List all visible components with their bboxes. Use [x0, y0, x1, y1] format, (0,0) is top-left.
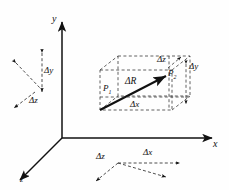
p2-sub: 2 — [174, 74, 177, 80]
axis-label-y: y — [52, 14, 56, 24]
box-label-dx: Δx — [130, 100, 139, 109]
left-cluster-label-dz: Δz — [29, 96, 38, 105]
box-label-dy: Δy — [189, 62, 198, 71]
top-dz-arrow — [168, 57, 181, 68]
left-cluster-diagonal-arrow — [16, 63, 41, 89]
bottom-cluster-label-dz: Δz — [96, 152, 105, 161]
bottom-cluster-dz-arrow — [96, 163, 118, 181]
box-label-dz: Δz — [157, 55, 166, 64]
point-label-p1: P1 — [103, 84, 111, 96]
point-label-p2: P2 — [168, 69, 176, 81]
p1-sub: 1 — [109, 89, 112, 95]
bottom-cluster-label-dx: Δx — [143, 148, 152, 157]
axis-label-x: x — [213, 139, 217, 149]
bottom-cluster-diagonal-arrow — [118, 163, 166, 177]
left-cluster-label-dy: Δy — [44, 66, 53, 75]
axis-label-z: z — [20, 176, 23, 184]
axis-z — [20, 138, 62, 180]
vector-diagram-figure: y x z P1 P2 ΔR Δx Δy Δz Δy Δz Δz Δx — [0, 0, 229, 190]
vector-label-delta-R: ΔR — [125, 77, 136, 87]
